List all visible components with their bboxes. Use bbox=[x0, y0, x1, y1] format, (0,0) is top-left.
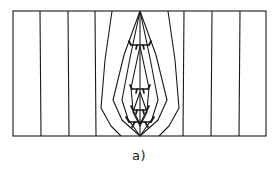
vertical-line-3 bbox=[95, 11, 96, 136]
vertical-line-2 bbox=[68, 11, 69, 136]
vertical-line-1 bbox=[40, 11, 41, 136]
figure-root: a) bbox=[0, 0, 278, 181]
vertical-line-8 bbox=[183, 11, 184, 136]
vertical-line-10 bbox=[239, 11, 240, 136]
deflected-line-right bbox=[159, 11, 179, 136]
vertical-line-9 bbox=[211, 11, 212, 136]
deflected-line-left bbox=[101, 11, 121, 136]
figure-caption: a) bbox=[0, 148, 278, 163]
